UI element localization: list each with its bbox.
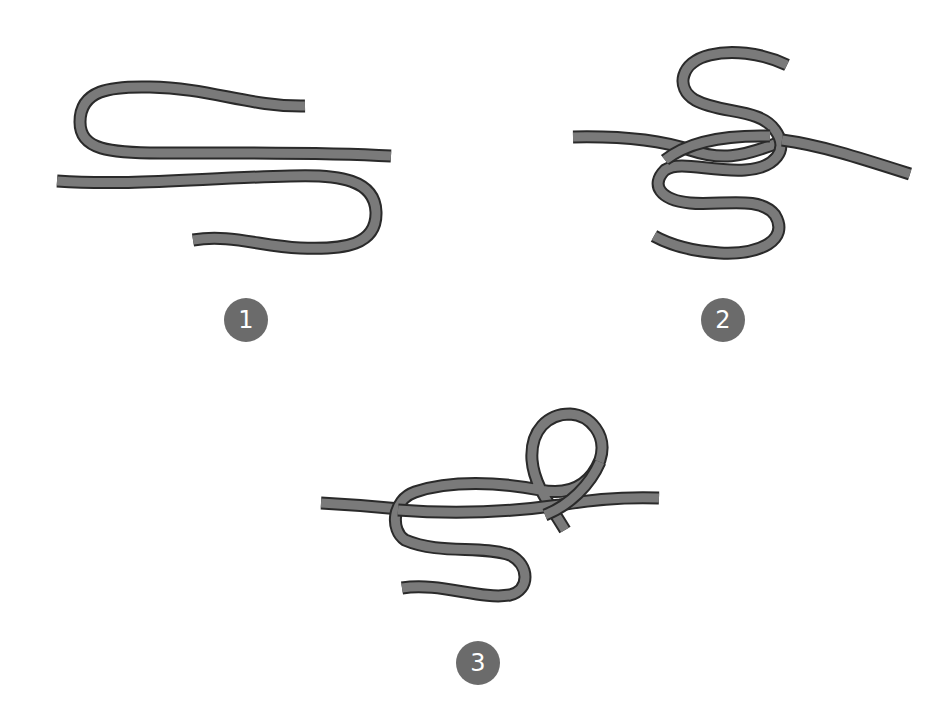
step-3-badge: 3: [456, 641, 500, 685]
step-2-number: 2: [715, 308, 730, 332]
knot-diagram: .out { fill: none; stroke: #2a2a2a; stro…: [0, 0, 952, 721]
step-1-badge: 1: [224, 298, 268, 342]
step-2-rope: [573, 52, 910, 253]
step-3-rope: [321, 414, 659, 596]
step-1-rope: [57, 87, 391, 249]
step-1-number: 1: [238, 308, 253, 332]
step-3-number: 3: [470, 651, 485, 675]
rope-illustrations: .out { fill: none; stroke: #2a2a2a; stro…: [0, 0, 952, 721]
step-2-badge: 2: [701, 298, 745, 342]
